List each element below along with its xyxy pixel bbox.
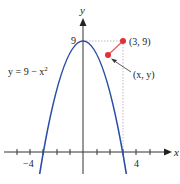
y-axis-label: y	[79, 4, 85, 16]
annotation-leader	[113, 60, 131, 72]
x-axis: x −4 4	[4, 146, 179, 169]
equation-exponent: 2	[44, 65, 48, 73]
x-tick-label-4: 4	[134, 158, 139, 169]
distance-segment	[108, 41, 123, 55]
x-tick-label-neg4: −4	[23, 158, 34, 169]
point-curve-label: (x, y)	[133, 69, 155, 81]
x-axis-label: x	[173, 146, 179, 158]
point-fixed	[120, 38, 126, 44]
equation-label: y = 9 − x2	[8, 65, 48, 77]
point-fixed-label: (3, 9)	[129, 36, 151, 48]
equation-body: y = 9 − x	[8, 66, 44, 77]
point-on-curve	[105, 52, 111, 58]
y-axis-arrow-icon	[80, 18, 87, 26]
x-axis-arrow-icon	[164, 149, 172, 156]
parabola-figure: x −4 4 y 9 (3, 9) (x, y) y = 9 − x2	[0, 0, 180, 184]
y-axis: y 9	[71, 4, 87, 174]
